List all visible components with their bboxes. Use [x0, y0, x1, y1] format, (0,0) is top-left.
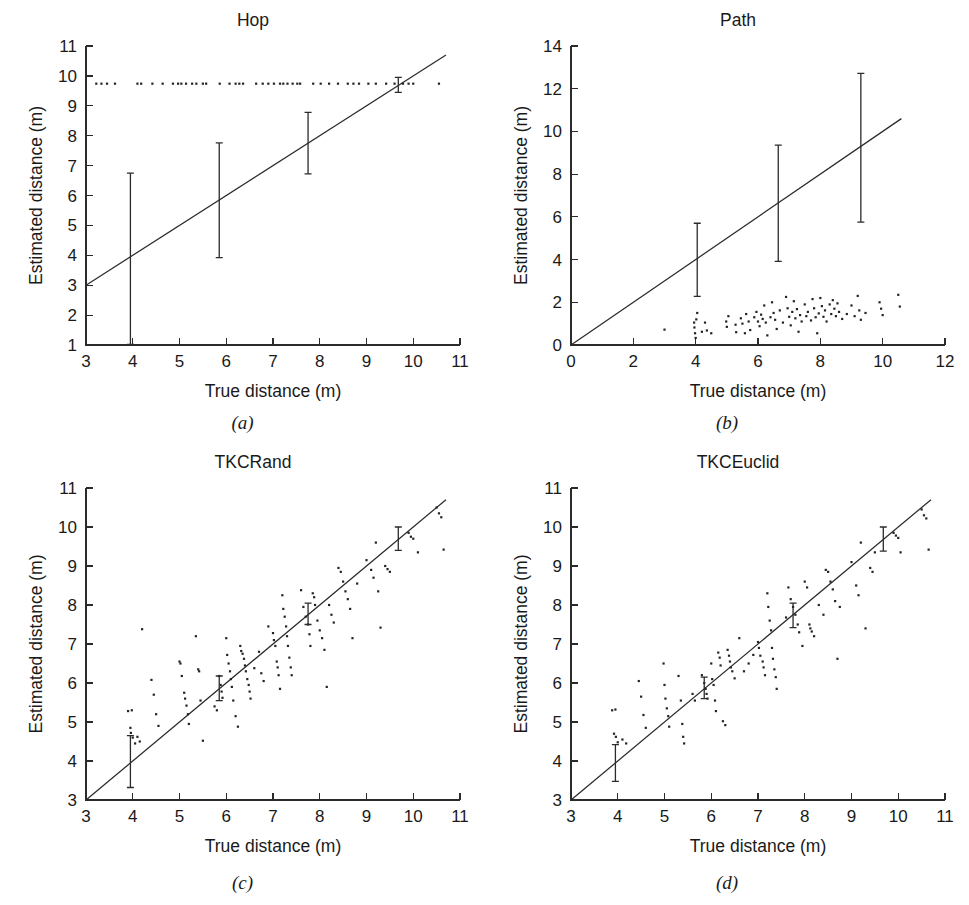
data-point — [892, 532, 894, 534]
data-point — [389, 571, 391, 573]
plot-panel-b: Path02468101214024681012True distance (m… — [485, 0, 969, 440]
x-tick-label: 6 — [222, 807, 231, 826]
data-point — [773, 668, 775, 670]
data-point — [770, 629, 772, 631]
data-point — [710, 662, 712, 664]
x-tick-label: 8 — [800, 807, 809, 826]
data-point — [779, 309, 781, 311]
data-point — [282, 608, 284, 610]
data-point — [858, 309, 860, 311]
data-point — [286, 635, 288, 637]
data-point — [316, 620, 318, 622]
data-point — [772, 658, 774, 660]
data-point — [181, 675, 183, 677]
data-point — [921, 508, 923, 510]
data-point — [745, 313, 747, 315]
data-point — [735, 331, 737, 333]
data-point — [243, 658, 245, 660]
data-point — [850, 304, 852, 306]
data-point — [804, 303, 806, 305]
y-tick-label: 11 — [59, 479, 77, 498]
data-point — [349, 608, 351, 610]
x-tick-label: 10 — [889, 807, 908, 826]
data-point — [130, 732, 132, 734]
data-point — [342, 581, 344, 583]
data-point — [172, 83, 174, 85]
data-point — [287, 645, 289, 647]
data-point — [815, 316, 817, 318]
x-tick-label: 9 — [362, 352, 371, 371]
data-point — [857, 295, 859, 297]
data-point — [614, 708, 616, 710]
panel-caption-d: (d) — [485, 872, 969, 894]
data-point — [272, 632, 274, 634]
data-point — [727, 649, 729, 651]
data-point — [645, 727, 647, 729]
y-tick-label: 14 — [543, 37, 562, 56]
data-point — [249, 698, 251, 700]
data-point — [337, 83, 339, 85]
data-point — [230, 678, 232, 680]
data-point — [897, 294, 899, 296]
data-point — [351, 637, 353, 639]
y-axis-title: Estimated distance (m) — [26, 555, 46, 734]
y-tick-label: 9 — [553, 557, 562, 576]
y-tick-label: 10 — [543, 518, 562, 537]
y-tick-label: 8 — [68, 596, 77, 615]
data-point — [379, 627, 381, 629]
identity-line — [571, 500, 931, 800]
y-tick-label: 3 — [68, 276, 77, 295]
y-tick-label: 9 — [68, 557, 77, 576]
data-point — [375, 83, 377, 85]
data-point — [748, 320, 750, 322]
data-point — [668, 726, 670, 728]
x-tick-label: 3 — [81, 352, 90, 371]
data-point — [874, 551, 876, 553]
x-tick-label: 8 — [816, 352, 825, 371]
data-point — [719, 657, 721, 659]
data-point — [787, 307, 789, 309]
data-point — [772, 312, 774, 314]
data-point — [801, 320, 803, 322]
data-point — [276, 660, 278, 662]
y-tick-label: 0 — [553, 336, 562, 355]
data-point — [771, 301, 773, 303]
data-point — [352, 83, 354, 85]
data-point — [748, 662, 750, 664]
plot-panel-c: TKCRand3456789101134567891011True distan… — [0, 440, 485, 905]
data-point — [864, 627, 866, 629]
data-point — [191, 83, 193, 85]
data-point — [766, 592, 768, 594]
error-bar — [305, 112, 312, 174]
data-point — [139, 740, 141, 742]
data-point — [225, 637, 227, 639]
data-point — [728, 655, 730, 657]
data-point — [199, 699, 201, 701]
data-point — [818, 604, 820, 606]
x-tick-label: 10 — [404, 352, 423, 371]
data-point — [213, 705, 215, 707]
data-point — [880, 308, 882, 310]
data-point — [245, 670, 247, 672]
data-point — [240, 650, 242, 652]
data-point — [309, 645, 311, 647]
x-tick-label: 11 — [451, 352, 469, 371]
data-point — [344, 590, 346, 592]
data-point — [710, 332, 712, 334]
error-bar — [612, 745, 619, 782]
data-point — [249, 690, 251, 692]
data-point — [377, 590, 379, 592]
error-bar — [880, 527, 887, 551]
panel-caption-c: (c) — [0, 872, 485, 894]
error-bar — [395, 527, 402, 550]
data-point — [731, 670, 733, 672]
panel-title-c: TKCRand — [215, 452, 292, 472]
data-point — [738, 637, 740, 639]
data-point — [305, 616, 307, 618]
data-point — [790, 598, 792, 600]
data-point — [365, 559, 367, 561]
y-tick-label: 8 — [68, 127, 77, 146]
data-point — [440, 516, 442, 518]
data-point — [129, 727, 131, 729]
data-point — [197, 668, 199, 670]
